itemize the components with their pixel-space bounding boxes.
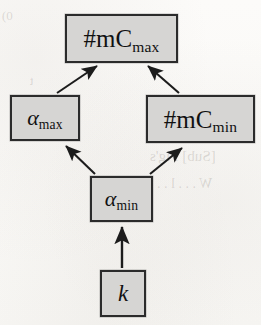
node-k[interactable]: k [100,270,146,317]
edge-a-max-to-mc-max [57,66,97,93]
node-alpha-max[interactable]: αmax [10,95,80,141]
node-mc-max-label: #mCmax [84,26,160,51]
edge-mc-min-to-mc-max [148,66,179,93]
node-alpha-min-label: αmin [105,188,138,210]
node-mc-min-label: #mCmin [164,107,237,132]
bleed-through-text: [Sub] Fig's [150,148,216,165]
bleed-through-text: t [30,74,33,89]
edge-a-min-to-mc-min [150,148,182,174]
node-mc-max[interactable]: #mCmax [65,14,178,63]
node-alpha-max-label: αmax [27,107,63,129]
node-alpha-min[interactable]: αmin [90,176,153,222]
node-k-label: k [118,282,128,305]
node-mc-min[interactable]: #mCmin [146,95,255,143]
bleed-through-text: W . . . l . . . [150,176,212,192]
bleed-through-text: 0) [2,8,13,24]
edge-a-min-to-a-max [66,146,95,174]
diagram-canvas: [Sub] Fig's W . . . l . . . 0) t #mCmax … [0,0,261,325]
